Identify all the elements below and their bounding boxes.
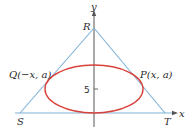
vertex-label-r: R [82, 21, 91, 32]
point-label-q: Q(−x, a) [9, 69, 51, 80]
diagram-canvas: 5 y x R S T Q(−x, a) P(x, a) [0, 0, 192, 137]
x-axis-arrow-icon [172, 111, 178, 115]
x-axis-label: x [179, 108, 185, 119]
vertex-label-t: T [164, 116, 172, 127]
y-tick-label: 5 [84, 85, 90, 95]
y-axis-label: y [90, 1, 97, 12]
vertex-label-s: S [17, 116, 24, 127]
point-label-p: P(x, a) [139, 69, 173, 80]
